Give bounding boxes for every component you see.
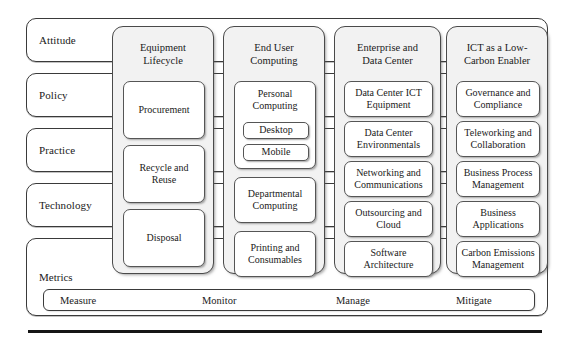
- card-teleworking-and-collaboration-label: Teleworking and Collaboration: [461, 127, 535, 151]
- pillar-title-line2: Lifecycle: [143, 55, 183, 66]
- card-departmental-computing-label: Departmental Computing: [239, 188, 311, 212]
- row-policy-label: Policy: [39, 89, 68, 101]
- card-printing-and-consumables-label: Printing and Consumables: [239, 242, 311, 266]
- card-procurement[interactable]: Procurement: [123, 81, 205, 139]
- metrics-stage-mitigate: Mitigate: [456, 295, 492, 306]
- pillar-title-line2: Computing: [250, 55, 297, 66]
- pillar-equipment-lifecycle-title: Equipment Lifecycle: [113, 31, 213, 77]
- card-carbon-emissions-management[interactable]: Carbon Emissions Management: [456, 241, 540, 277]
- card-data-center-ict-equipment-label: Data Center ICT Equipment: [349, 87, 428, 111]
- card-business-process-management-label: Business Process Management: [461, 167, 535, 191]
- pillar-end-user-computing-title: End User Computing: [224, 31, 324, 77]
- card-software-architecture[interactable]: Software Architecture: [344, 241, 433, 277]
- subcard-desktop-label: Desktop: [259, 124, 292, 136]
- card-networking-and-communications-label: Networking and Communications: [349, 167, 428, 191]
- card-business-process-management[interactable]: Business Process Management: [456, 161, 540, 197]
- metrics-stage-monitor: Monitor: [202, 295, 236, 306]
- pillar-ict-low-carbon-enabler: ICT as a Low- Carbon Enabler Governance …: [446, 26, 548, 274]
- metrics-bar: Measure Monitor Manage Mitigate: [43, 289, 535, 311]
- card-business-applications[interactable]: Business Applications: [456, 201, 540, 237]
- card-data-center-environmentals-label: Data Center Environmentals: [349, 127, 428, 151]
- subcard-mobile-label: Mobile: [262, 146, 291, 158]
- card-disposal-label: Disposal: [147, 232, 182, 244]
- row-practice-label: Practice: [39, 144, 75, 156]
- pillar-equipment-lifecycle: Equipment Lifecycle Procurement Recycle …: [112, 26, 214, 274]
- card-disposal[interactable]: Disposal: [123, 209, 205, 267]
- card-business-applications-label: Business Applications: [461, 207, 535, 231]
- subcard-mobile[interactable]: Mobile: [243, 144, 309, 161]
- subcard-desktop[interactable]: Desktop: [243, 122, 309, 139]
- card-recycle-and-reuse[interactable]: Recycle and Reuse: [123, 145, 205, 203]
- pillar-title-line2: Data Center: [362, 55, 412, 66]
- pillar-enterprise-and-data-center: Enterprise and Data Center Data Center I…: [334, 26, 441, 274]
- card-software-architecture-label: Software Architecture: [349, 247, 428, 271]
- card-networking-and-communications[interactable]: Networking and Communications: [344, 161, 433, 197]
- pillar-title-line1: ICT as a Low-: [467, 42, 528, 53]
- card-personal-computing[interactable]: Personal Computing Desktop Mobile: [234, 81, 316, 169]
- framework-diagram: Attitude Policy Practice Technology Metr…: [0, 0, 570, 340]
- metrics-stage-manage: Manage: [336, 295, 370, 306]
- pillar-title-line1: End User: [254, 42, 293, 53]
- pillar-title-line1: Enterprise and: [357, 42, 418, 53]
- card-outsourcing-and-cloud-label: Outsourcing and Cloud: [349, 207, 428, 231]
- bottom-rule: [28, 330, 542, 333]
- card-governance-and-compliance-label: Governance and Compliance: [461, 87, 535, 111]
- card-teleworking-and-collaboration[interactable]: Teleworking and Collaboration: [456, 121, 540, 157]
- pillar-title-line1: Equipment: [140, 42, 186, 53]
- metrics-stage-measure: Measure: [60, 295, 96, 306]
- card-printing-and-consumables[interactable]: Printing and Consumables: [234, 231, 316, 277]
- pillar-enterprise-and-data-center-title: Enterprise and Data Center: [335, 31, 440, 77]
- row-attitude-label: Attitude: [39, 34, 76, 46]
- card-procurement-label: Procurement: [138, 104, 189, 116]
- card-recycle-and-reuse-label: Recycle and Reuse: [128, 162, 200, 186]
- pillar-ict-low-carbon-enabler-title: ICT as a Low- Carbon Enabler: [447, 31, 547, 77]
- pillar-end-user-computing: End User Computing Personal Computing De…: [223, 26, 325, 274]
- card-governance-and-compliance[interactable]: Governance and Compliance: [456, 81, 540, 117]
- card-outsourcing-and-cloud[interactable]: Outsourcing and Cloud: [344, 201, 433, 237]
- pillar-title-line2: Carbon Enabler: [464, 55, 530, 66]
- card-departmental-computing[interactable]: Departmental Computing: [234, 177, 316, 223]
- card-personal-computing-label: Personal Computing: [235, 82, 315, 112]
- metrics-title: Metrics: [39, 271, 73, 283]
- card-data-center-ict-equipment[interactable]: Data Center ICT Equipment: [344, 81, 433, 117]
- card-data-center-environmentals[interactable]: Data Center Environmentals: [344, 121, 433, 157]
- card-carbon-emissions-management-label: Carbon Emissions Management: [461, 247, 535, 271]
- row-technology-label: Technology: [39, 199, 92, 211]
